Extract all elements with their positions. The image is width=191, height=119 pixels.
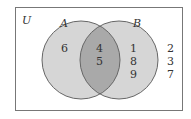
venn-diagram: U A B 6 4 5 1 8 9 2 3 7 bbox=[0, 0, 191, 119]
intersection-element: 5 bbox=[96, 55, 103, 68]
b-only-element: 9 bbox=[130, 68, 137, 81]
b-only-element: 8 bbox=[130, 55, 137, 68]
set-b-label: B bbox=[132, 17, 141, 30]
b-only-element: 1 bbox=[130, 42, 137, 55]
universe-label: U bbox=[22, 14, 32, 27]
intersection-element: 4 bbox=[96, 42, 103, 55]
outside-element: 7 bbox=[167, 68, 174, 81]
outside-element: 3 bbox=[167, 55, 174, 68]
a-only-element: 6 bbox=[61, 42, 68, 55]
set-a-label: A bbox=[59, 17, 68, 30]
outside-element: 2 bbox=[167, 42, 174, 55]
